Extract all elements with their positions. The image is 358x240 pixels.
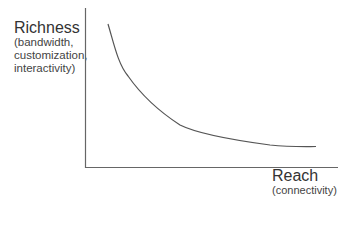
tradeoff-curve (108, 24, 316, 147)
x-axis-subtitle: (connectivity) (272, 184, 337, 196)
x-axis-title: Reach (272, 167, 337, 184)
x-axis-label: Reach (connectivity) (272, 167, 337, 196)
